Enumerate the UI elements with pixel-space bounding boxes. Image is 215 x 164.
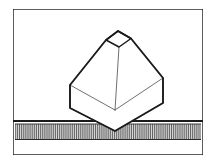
technical-drawing-canvas — [0, 0, 215, 164]
figure-container: Octahedral solid balanced on apex over h… — [0, 0, 215, 164]
